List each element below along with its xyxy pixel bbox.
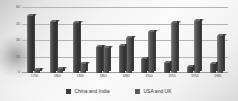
bar-china-and-india-1953 — [187, 67, 193, 74]
bar-group — [187, 7, 202, 73]
bar-side-face — [170, 61, 172, 71]
bar-group — [141, 7, 156, 73]
bar-side-face — [86, 62, 88, 71]
bar-china-and-india-1980 — [210, 64, 216, 73]
bar-side-face — [147, 57, 149, 71]
bar-china-and-india-1830 — [73, 23, 79, 73]
bar-side-face — [200, 19, 202, 71]
bar-side-face — [56, 20, 58, 71]
bar-group — [73, 7, 88, 73]
bar-front-face — [73, 23, 79, 73]
bar-china-and-india-1913 — [164, 63, 170, 73]
bar-side-face — [216, 62, 218, 71]
y-tick-60: 60 — [4, 5, 20, 9]
bar-china-and-india-1860 — [96, 47, 102, 73]
y-tick-45: 45 — [4, 22, 20, 26]
bar-side-face — [33, 14, 35, 71]
bar-side-face — [40, 68, 42, 71]
x-tick-label: 1913 — [162, 74, 182, 79]
y-tick-15: 15 — [4, 55, 20, 59]
x-tick-label: 1880 — [116, 74, 136, 79]
chart-legend: China and India USA and UK — [0, 86, 238, 96]
bar-china-and-india-1750 — [27, 16, 33, 73]
bar-china-and-india-1880 — [119, 46, 125, 73]
legend-label: USA and UK — [143, 88, 171, 94]
bar-side-face — [223, 34, 225, 71]
bar-side-face — [79, 21, 81, 71]
chart-figure: 60 45 30 15 0 17501800183018601880190019… — [0, 0, 238, 101]
x-axis: 175018001830186018801900191319531980 — [22, 74, 228, 81]
x-tick-label: 1800 — [47, 74, 67, 79]
x-tick-label: 1953 — [185, 74, 205, 79]
bar-china-and-india-1800 — [50, 22, 56, 73]
x-tick-label: 1860 — [93, 74, 113, 79]
bar-group — [164, 7, 179, 73]
legend-item-usa-and-uk: USA and UK — [135, 88, 171, 94]
x-tick-label: 1830 — [70, 74, 90, 79]
bar-front-face — [164, 63, 170, 73]
bar-side-face — [132, 36, 134, 71]
legend-swatch-icon — [135, 89, 140, 94]
bar-front-face — [187, 67, 193, 74]
bar-front-face — [96, 47, 102, 73]
x-tick-label: 1900 — [139, 74, 159, 79]
x-tick-label: 1980 — [208, 74, 228, 79]
bar-side-face — [125, 44, 127, 71]
bar-side-face — [102, 45, 104, 71]
bar-series-container — [22, 7, 228, 73]
x-tick-label: 1750 — [24, 74, 44, 79]
y-axis: 60 45 30 15 0 — [2, 7, 20, 73]
bar-group — [210, 7, 225, 73]
bar-side-face — [109, 46, 111, 71]
bar-front-face — [119, 46, 125, 73]
bar-front-face — [210, 64, 216, 73]
bar-group — [119, 7, 134, 73]
bar-side-face — [154, 30, 156, 71]
bar-side-face — [177, 21, 179, 71]
y-tick-30: 30 — [4, 38, 20, 42]
bar-group — [27, 7, 42, 73]
bar-front-face — [27, 16, 33, 73]
bar-side-face — [63, 67, 65, 71]
y-tick-0: 0 — [4, 70, 20, 74]
legend-label: China and India — [74, 88, 109, 94]
bar-front-face — [141, 59, 147, 73]
bar-front-face — [50, 22, 56, 73]
legend-item-china-and-india: China and India — [66, 88, 109, 94]
bar-side-face — [193, 65, 195, 72]
bar-group — [96, 7, 111, 73]
legend-swatch-icon — [66, 89, 71, 94]
bar-china-and-india-1900 — [141, 59, 147, 73]
bar-group — [50, 7, 65, 73]
